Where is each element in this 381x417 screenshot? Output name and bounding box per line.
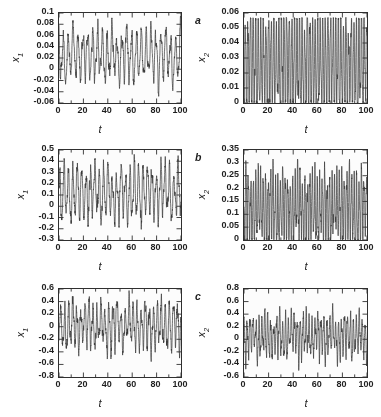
- x-tick-label: 100: [352, 242, 380, 252]
- y-tick-label: -0.02: [9, 74, 54, 84]
- y-tick-label: 0.5: [9, 143, 54, 153]
- y-tick-label: 0.1: [194, 207, 239, 217]
- y-tick-label: 0.2: [194, 320, 239, 330]
- x-axis-label-c-x1: t: [90, 397, 110, 409]
- y-tick-label: -0.6: [9, 357, 54, 367]
- x-axis-label-c-x2: t: [296, 397, 316, 409]
- y-tick-label: -0.2: [194, 345, 239, 355]
- y-tick-label: 0.2: [9, 177, 54, 187]
- plot-area-b-x2: [243, 149, 368, 241]
- y-tick-label: 0.2: [9, 307, 54, 317]
- y-tick-label: 0.25: [194, 169, 239, 179]
- y-tick-label: 0.4: [9, 295, 54, 305]
- y-tick-label: 0.05: [194, 21, 239, 31]
- y-tick-label: 0.04: [194, 36, 239, 46]
- y-tick-label: 0.02: [194, 66, 239, 76]
- x-axis-label-a-x2: t: [296, 123, 316, 135]
- x-tick-label: 100: [352, 379, 380, 389]
- figure-panel-grid: x1 t x2 t a x1 t x2 t b x1 t x2 t c -0.0…: [0, 0, 381, 417]
- data-series-line: [59, 154, 181, 229]
- data-series-line: [244, 303, 367, 370]
- y-tick-label: 0.08: [9, 17, 54, 27]
- plot-area-a-x1: [58, 12, 182, 104]
- y-tick-label: -0.4: [194, 357, 239, 367]
- y-tick-label: 0.05: [194, 220, 239, 230]
- y-tick-label: 0.1: [9, 6, 54, 16]
- y-tick-label: 0: [194, 332, 239, 342]
- y-tick-label: 0.06: [9, 29, 54, 39]
- y-tick-label: -0.1: [9, 211, 54, 221]
- y-tick-label: -0.2: [9, 332, 54, 342]
- y-tick-label: 0.04: [9, 40, 54, 50]
- y-tick-label: 0.06: [194, 6, 239, 16]
- y-tick-label: 0: [9, 62, 54, 72]
- plot-area-c-x2: [243, 288, 368, 378]
- y-tick-label: 0.35: [194, 143, 239, 153]
- y-tick-label: 0.3: [194, 156, 239, 166]
- y-tick-label: 0.01: [194, 81, 239, 91]
- y-tick-label: 0.4: [9, 154, 54, 164]
- x-tick-label: 100: [166, 379, 194, 389]
- plot-area-a-x2: [243, 12, 368, 104]
- plot-svg: [244, 150, 367, 240]
- x-tick-label: 100: [352, 105, 380, 115]
- x-tick-label: 100: [166, 242, 194, 252]
- x-axis-label-b-x2: t: [296, 260, 316, 272]
- y-tick-label: 0: [9, 199, 54, 209]
- y-tick-label: 0.8: [194, 282, 239, 292]
- plot-area-b-x1: [58, 149, 182, 241]
- plot-area-c-x1: [58, 288, 182, 378]
- plot-svg: [59, 13, 181, 103]
- y-tick-label: 0.1: [9, 188, 54, 198]
- y-tick-label: -0.2: [9, 222, 54, 232]
- plot-svg: [244, 289, 367, 377]
- data-series-line: [59, 291, 181, 362]
- plot-svg: [244, 13, 367, 103]
- y-tick-label: 0.15: [194, 194, 239, 204]
- data-series-line: [244, 18, 367, 103]
- y-tick-label: 0.02: [9, 51, 54, 61]
- x-axis-label-b-x1: t: [90, 260, 110, 272]
- y-tick-label: 0: [9, 320, 54, 330]
- y-tick-label: -0.4: [9, 345, 54, 355]
- plot-svg: [59, 150, 181, 240]
- y-tick-label: 0.6: [194, 295, 239, 305]
- y-tick-label: 0.6: [9, 282, 54, 292]
- y-tick-label: 0.3: [9, 166, 54, 176]
- y-tick-label: 0.03: [194, 51, 239, 61]
- x-tick-label: 100: [166, 105, 194, 115]
- y-tick-label: 0.4: [194, 307, 239, 317]
- data-series-line: [59, 16, 181, 96]
- data-series-line: [244, 159, 367, 240]
- y-tick-label: -0.04: [9, 85, 54, 95]
- plot-svg: [59, 289, 181, 377]
- x-axis-label-a-x1: t: [90, 123, 110, 135]
- y-tick-label: 0.2: [194, 182, 239, 192]
